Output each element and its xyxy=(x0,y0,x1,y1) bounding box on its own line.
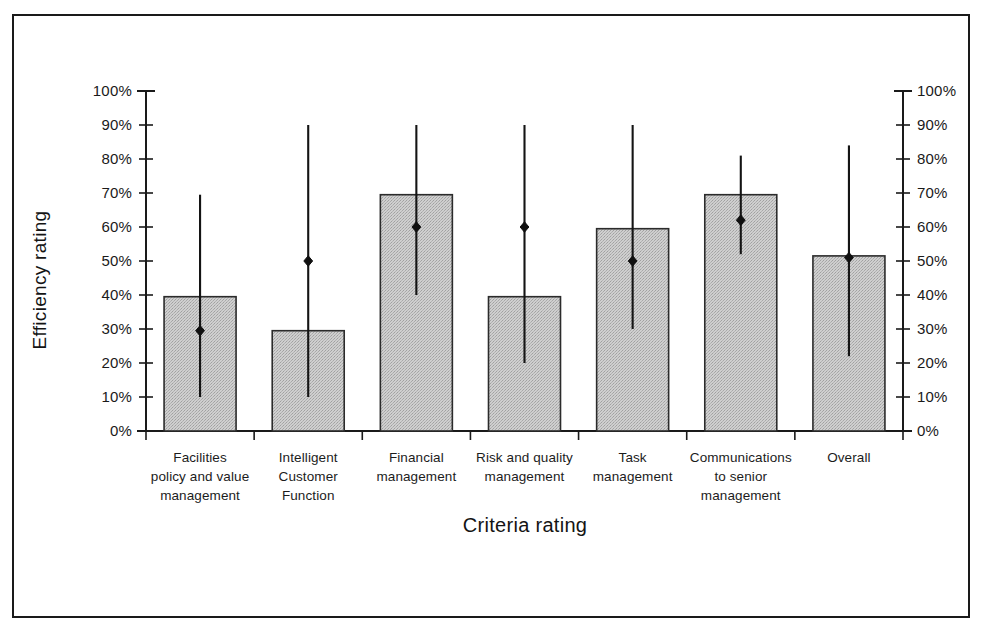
category-label-7: Overall xyxy=(789,448,909,467)
data-point-marker-4 xyxy=(520,222,529,232)
y-tick-label-right: 90% xyxy=(917,116,969,133)
chart-figure: Efficiency rating Criteria rating 100%90… xyxy=(0,0,984,634)
y-tick-label-right: 80% xyxy=(917,150,969,167)
category-label-1: Facilitiespolicy and valuemanagement xyxy=(140,448,260,505)
y-tick-label-left: 30% xyxy=(80,320,132,337)
category-label-3: Financialmanagement xyxy=(356,448,476,486)
y-tick-label-left: 50% xyxy=(80,252,132,269)
category-label-line: Intelligent xyxy=(248,448,368,467)
y-tick-label-right: 60% xyxy=(917,218,969,235)
category-label-line: Overall xyxy=(789,448,909,467)
category-label-line: policy and value xyxy=(140,467,260,486)
category-label-line: Task xyxy=(573,448,693,467)
y-tick-label-right: 20% xyxy=(917,354,969,371)
y-tick-label-right: 50% xyxy=(917,252,969,269)
y-tick-label-left: 10% xyxy=(80,388,132,405)
y-tick-label-right: 30% xyxy=(917,320,969,337)
category-label-6: Communicationsto seniormanagement xyxy=(681,448,801,505)
y-tick-label-left: 0% xyxy=(80,422,132,439)
y-tick-label-left: 80% xyxy=(80,150,132,167)
y-tick-label-left: 70% xyxy=(80,184,132,201)
category-label-line: management xyxy=(356,467,476,486)
category-label-line: Risk and quality xyxy=(464,448,584,467)
category-label-line: Communications xyxy=(681,448,801,467)
category-label-line: Financial xyxy=(356,448,476,467)
category-label-line: management xyxy=(464,467,584,486)
category-label-line: to senior xyxy=(681,467,801,486)
y-tick-label-left: 40% xyxy=(80,286,132,303)
y-tick-label-left: 100% xyxy=(80,82,132,99)
category-label-line: management xyxy=(573,467,693,486)
y-tick-label-left: 20% xyxy=(80,354,132,371)
category-label-line: Function xyxy=(248,486,368,505)
y-tick-label-right: 70% xyxy=(917,184,969,201)
y-tick-label-right: 40% xyxy=(917,286,969,303)
category-label-line: management xyxy=(681,486,801,505)
y-tick-label-right: 10% xyxy=(917,388,969,405)
y-tick-label-right: 0% xyxy=(917,422,969,439)
y-tick-label-right: 100% xyxy=(917,82,969,99)
plot-area xyxy=(0,0,984,634)
category-label-line: Facilities xyxy=(140,448,260,467)
y-tick-label-left: 60% xyxy=(80,218,132,235)
category-label-4: Risk and qualitymanagement xyxy=(464,448,584,486)
data-point-marker-2 xyxy=(304,256,313,266)
category-label-line: management xyxy=(140,486,260,505)
category-label-2: IntelligentCustomerFunction xyxy=(248,448,368,505)
category-label-5: Taskmanagement xyxy=(573,448,693,486)
category-label-line: Customer xyxy=(248,467,368,486)
y-tick-label-left: 90% xyxy=(80,116,132,133)
